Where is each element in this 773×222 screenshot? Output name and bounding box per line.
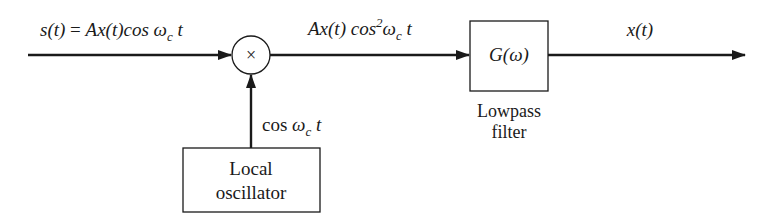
filter-transfer-function: G(ω)	[489, 44, 529, 66]
multiply-icon: ×	[246, 45, 256, 65]
oscillator-label-line1: Local	[229, 158, 272, 179]
mixer-output-label: Ax(t) cos2ωc t	[306, 15, 413, 43]
block-diagram: s(t) = Ax(t)cos ωc t × Ax(t) cos2ωc t G(…	[0, 0, 773, 222]
input-signal-label: s(t) = Ax(t)cos ωc t	[40, 19, 184, 44]
filter-caption-line1: Lowpass	[477, 101, 541, 121]
oscillator-label-line2: oscillator	[216, 182, 287, 203]
mixer: ×	[232, 36, 270, 74]
output-signal-label: x(t)	[626, 19, 653, 41]
filter-caption-line2: filter	[492, 122, 527, 142]
oscillator-output-label: cos ωc t	[262, 114, 322, 139]
